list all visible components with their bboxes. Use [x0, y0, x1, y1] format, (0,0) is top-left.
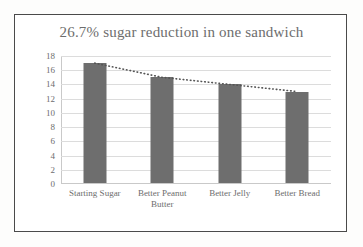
y-axis-tick-label: 8 — [51, 122, 56, 132]
chart-title: 26.7% sugar reduction in one sandwich — [15, 24, 348, 41]
y-axis-tick-label: 0 — [51, 179, 56, 189]
bar-slot — [196, 56, 264, 184]
y-axis-tick-label: 14 — [46, 79, 55, 89]
chart-screenshot: 26.7% sugar reduction in one sandwich 18… — [0, 0, 363, 247]
y-axis-tick-label: 4 — [51, 151, 56, 161]
y-axis-tick-label: 2 — [51, 165, 56, 175]
y-axis-tick-label: 10 — [46, 108, 55, 118]
bar-slot — [61, 56, 129, 184]
y-axis-tick-label: 12 — [46, 94, 55, 104]
bar — [83, 63, 106, 184]
y-axis-tick-label: 6 — [51, 136, 56, 146]
bar — [286, 92, 309, 184]
x-axis-category-label: Better Peanut Butter — [129, 188, 197, 210]
y-axis-tick-label: 18 — [46, 51, 55, 61]
bar-series — [61, 56, 331, 184]
x-axis-category-label: Better Jelly — [196, 188, 264, 199]
plot-area: 181614121086420 — [61, 56, 331, 184]
x-axis-category-labels: Starting SugarBetter Peanut ButterBetter… — [61, 188, 331, 244]
chart-frame: 26.7% sugar reduction in one sandwich 18… — [14, 14, 347, 232]
x-axis-baseline — [61, 183, 331, 184]
bar — [218, 84, 241, 184]
bar — [151, 77, 174, 184]
y-axis-tick-label: 16 — [46, 65, 55, 75]
x-axis-category-label: Starting Sugar — [61, 188, 129, 199]
bar-slot — [264, 56, 332, 184]
x-axis-category-label: Better Bread — [264, 188, 332, 199]
bar-slot — [129, 56, 197, 184]
